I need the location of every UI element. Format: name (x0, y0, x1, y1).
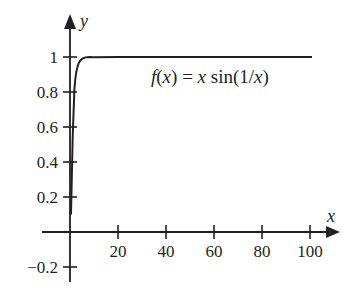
y-axis-label: y (78, 11, 88, 31)
x-tick-label: 80 (254, 242, 271, 261)
tick-marks (63, 57, 310, 267)
y-tick-label: 0.4 (37, 153, 59, 172)
y-tick-label: 0.6 (37, 118, 58, 137)
x-tick-label: 40 (158, 242, 175, 261)
y-axis-arrow-icon (64, 14, 76, 29)
axes (42, 14, 340, 282)
formula-annotation: f(x) = x sin(1/x) (151, 66, 269, 88)
y-tick-label: 0.8 (37, 83, 58, 102)
y-tick-label: 0.2 (37, 188, 58, 207)
function-plot: 20406080100−0.20.20.40.60.81 y x f(x) = … (0, 0, 359, 296)
x-tick-label: 60 (206, 242, 223, 261)
x-tick-label: 20 (110, 242, 127, 261)
x-axis-arrow-icon (326, 226, 340, 238)
x-tick-label: 100 (297, 242, 323, 261)
x-axis-label: x (326, 206, 335, 226)
y-tick-label: −0.2 (27, 258, 58, 277)
y-tick-label: 1 (50, 48, 59, 67)
